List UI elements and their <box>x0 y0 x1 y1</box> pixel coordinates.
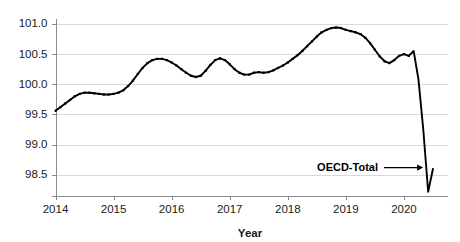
data-point-marker <box>345 29 347 31</box>
data-point-marker <box>340 27 342 29</box>
y-axis-tick-label: 100.0 <box>19 78 48 90</box>
data-point-marker <box>379 55 381 57</box>
annotation-label-oecd-total: OECD-Total <box>317 161 378 173</box>
y-axis-tick-label: 98.5 <box>25 168 47 180</box>
data-point-marker <box>229 63 231 65</box>
data-point-marker <box>175 64 177 66</box>
data-point-marker <box>374 49 376 51</box>
data-point-marker <box>243 73 245 75</box>
data-point-marker <box>301 50 303 52</box>
data-point-marker <box>127 85 129 87</box>
data-point-marker <box>200 75 202 77</box>
data-point-marker <box>369 42 371 44</box>
data-point-marker <box>142 67 144 69</box>
data-point-marker <box>253 72 255 74</box>
data-point-marker <box>335 26 337 28</box>
data-point-marker <box>384 60 386 62</box>
data-point-marker <box>161 58 163 60</box>
data-point-marker <box>132 80 134 82</box>
y-axis-tick-labels: 101.0100.5100.099.599.098.5 <box>19 17 48 180</box>
data-point-marker <box>287 61 289 63</box>
data-point-marker <box>311 40 313 42</box>
data-point-marker <box>93 92 95 94</box>
data-point-marker <box>204 70 206 72</box>
annotation-arrowhead <box>417 164 423 170</box>
data-point-marker <box>316 35 318 37</box>
chart-container: 101.0100.5100.099.599.098.5 201420152016… <box>0 0 460 242</box>
data-point-marker <box>190 75 192 77</box>
data-point-marker <box>238 72 240 74</box>
y-axis-tick-label: 99.0 <box>25 138 47 150</box>
data-point-marker <box>79 93 81 95</box>
data-point-marker <box>359 33 361 35</box>
data-point-marker <box>166 59 168 61</box>
data-point-marker <box>393 59 395 61</box>
data-point-marker <box>248 73 250 75</box>
data-point-marker <box>403 53 405 55</box>
data-point-marker <box>103 93 105 95</box>
data-point-marker <box>330 27 332 29</box>
data-point-marker <box>112 93 114 95</box>
data-point-marker <box>83 92 85 94</box>
data-point-marker <box>321 31 323 33</box>
data-point-marker <box>354 31 356 33</box>
x-axis-tick-labels: 2014201520162017201820192020 <box>43 203 417 215</box>
data-point-marker <box>219 57 221 59</box>
line-chart: 101.0100.5100.099.599.098.5 201420152016… <box>0 0 460 242</box>
data-point-marker <box>195 76 197 78</box>
data-point-marker <box>267 71 269 73</box>
data-point-marker <box>156 58 158 60</box>
x-axis-tick-label: 2016 <box>159 203 185 215</box>
data-point-marker <box>151 59 153 61</box>
axes-group <box>52 19 448 200</box>
data-point-marker <box>64 102 66 104</box>
data-point-marker <box>262 72 264 74</box>
data-point-marker <box>137 73 139 75</box>
data-point-marker <box>98 93 100 95</box>
data-point-marker <box>117 92 119 94</box>
y-axis-tick-label: 101.0 <box>19 17 48 29</box>
x-axis-tick-label: 2017 <box>217 203 243 215</box>
y-axis-tick-label: 99.5 <box>25 108 47 120</box>
data-point-marker <box>180 68 182 70</box>
data-point-marker <box>146 62 148 64</box>
x-axis-tick-label: 2014 <box>43 203 69 215</box>
data-point-marker <box>296 54 298 56</box>
data-point-marker <box>185 72 187 74</box>
x-axis-tick-label: 2019 <box>333 203 359 215</box>
data-point-marker <box>277 67 279 69</box>
x-axis-title: Year <box>238 227 263 239</box>
annotation-group: OECD-Total <box>317 161 423 173</box>
data-point-marker <box>364 37 366 39</box>
data-point-marker <box>258 71 260 73</box>
y-axis-tick-label: 100.5 <box>19 48 48 60</box>
gridlines-group <box>56 25 448 176</box>
data-point-marker <box>214 59 216 61</box>
data-point-marker <box>171 61 173 63</box>
data-point-marker <box>122 89 124 91</box>
data-point-marker <box>350 30 352 32</box>
x-axis-tick-label: 2018 <box>275 203 301 215</box>
data-point-marker <box>233 68 235 70</box>
data-point-marker <box>69 99 71 101</box>
data-point-marker <box>282 64 284 66</box>
data-point-marker <box>209 64 211 66</box>
data-point-marker <box>74 95 76 97</box>
data-point-marker <box>398 55 400 57</box>
data-point-marker <box>54 110 56 112</box>
data-point-marker <box>224 59 226 61</box>
data-point-marker <box>272 69 274 71</box>
data-point-marker <box>388 62 390 64</box>
x-axis-tick-label: 2015 <box>101 203 127 215</box>
data-point-marker <box>108 93 110 95</box>
data-point-marker <box>325 29 327 31</box>
data-point-marker <box>292 58 294 60</box>
data-point-marker <box>408 55 410 57</box>
data-point-marker <box>88 92 90 94</box>
x-axis-tick-label: 2020 <box>391 203 417 215</box>
data-point-marker <box>306 45 308 47</box>
data-point-marker <box>59 106 61 108</box>
